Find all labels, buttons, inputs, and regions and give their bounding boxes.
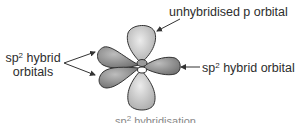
nucleus-lower: [138, 67, 147, 73]
sp2-lobe-right: [144, 57, 180, 74]
label-left-sup: 2: [19, 51, 23, 60]
arrow-p-orbital: [157, 19, 180, 31]
label-unhybridised-p-orbital: unhybridised p orbital: [169, 5, 288, 19]
nucleus-upper: [137, 60, 147, 67]
arrow-left-lower: [64, 63, 95, 75]
label-right-sup: 2: [215, 61, 219, 70]
caption-prefix: sp: [115, 115, 127, 123]
p-orbital-lower-lobe: [128, 70, 155, 110]
label-sp2-hybrid-orbital: sp2 hybrid orbital: [202, 61, 295, 75]
label-right-prefix: sp: [202, 61, 215, 75]
label-right-rest: hybrid orbital: [220, 61, 295, 75]
label-left-line2: orbitals: [13, 65, 53, 79]
p-orbital-upper-lobe: [127, 25, 155, 63]
arrow-left-upper: [64, 52, 95, 63]
caption-rest: hybridisation: [131, 115, 196, 123]
label-sp2-hybrid-orbitals: sp2 hybrid orbitals: [4, 51, 62, 79]
diagram-caption: sp2 hybridisation: [115, 114, 196, 123]
label-left-prefix: sp: [5, 51, 18, 65]
caption-sup: 2: [127, 114, 131, 123]
label-left-rest: hybrid: [23, 51, 61, 65]
